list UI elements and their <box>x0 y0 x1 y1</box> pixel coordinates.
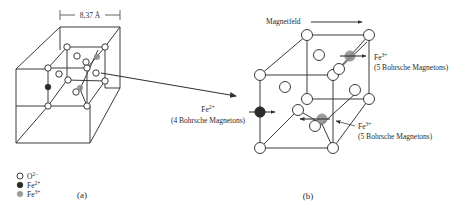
dimension-indicator: 8,37 Å <box>60 10 120 20</box>
annotation-fe3-lower: Fe3+ (5 Bohrsche Magnetons) <box>358 121 433 141</box>
spinel-ferrite-diagram: 8,37 Å <box>0 0 472 214</box>
fe3-ion <box>94 54 100 60</box>
caption-a: (a) <box>77 190 87 200</box>
svg-text:(4 Bohrsche Magnetons): (4 Bohrsche Magnetons) <box>171 116 246 125</box>
svg-text:(5 Bohrsche Magnetons): (5 Bohrsche Magnetons) <box>374 63 449 72</box>
svg-text:(5 Bohrsche Magnetons): (5 Bohrsche Magnetons) <box>358 132 433 141</box>
ions-panel-b <box>249 30 375 154</box>
legend: O2− Fe2+ Fe3+ <box>17 171 40 199</box>
field-label: Magnetfeld <box>266 17 301 26</box>
fe3-site-upper <box>340 51 366 61</box>
caption-b: (b) <box>303 191 314 201</box>
fe2-ion <box>45 84 51 90</box>
legend-item-fe3: Fe3+ <box>17 189 40 199</box>
svg-text:Fe3+: Fe3+ <box>358 121 371 131</box>
svg-text:Fe2+: Fe2+ <box>201 104 214 114</box>
fe3-ion <box>77 85 83 91</box>
annotation-fe2: Fe2+ (4 Bohrsche Magnetons) <box>171 104 246 125</box>
annotation-fe3-upper: Fe3+ (5 Bohrsche Magnetons) <box>374 52 449 72</box>
svg-text:Fe3+: Fe3+ <box>27 189 40 199</box>
zoom-arrow <box>101 73 236 96</box>
fe2-site <box>249 107 275 117</box>
svg-text:Fe3+: Fe3+ <box>374 52 387 62</box>
dimension-label: 8,37 Å <box>80 11 101 20</box>
panel-a-unit-cell: 8,37 Å <box>16 10 120 200</box>
panel-b-subcell: Magnetfeld <box>171 17 449 201</box>
